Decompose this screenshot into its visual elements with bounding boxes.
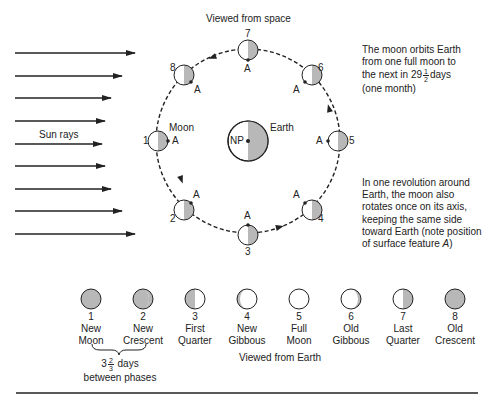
phase-label-new-crescent: 2NewCrescent [113, 311, 173, 347]
orbit-moon-1 [148, 131, 170, 151]
diagram-title: Viewed from space [206, 13, 291, 25]
surface-feature-a-dot [303, 80, 307, 84]
orbit-position-5: 5 [349, 135, 355, 147]
earth-label: Earth [270, 122, 294, 134]
orbit-position-2: 2 [170, 213, 176, 225]
orbit-moon-7 [238, 40, 258, 62]
phase-icon-new-gibbous [237, 289, 257, 309]
phase-icon-new-moon [81, 289, 101, 309]
phase-icon-full-moon [289, 289, 309, 309]
surface-feature-a-dot [166, 139, 170, 143]
orbit-position-6: 6 [318, 62, 324, 74]
phase-label-new-gibbous: 4NewGibbous [217, 311, 277, 347]
phase-icon-old-crescent [445, 289, 465, 309]
sun-rays-label: Sun rays [39, 129, 78, 141]
surface-feature-a-dot [246, 223, 250, 227]
feature-a-label-3: A [244, 210, 251, 222]
phase-label-old-gibbous: 6OldGibbous [321, 311, 381, 347]
phase-label-old-crescent: 8OldCrescent [425, 311, 485, 347]
phase-label-new-moon: 1NewMoon [61, 311, 121, 347]
feature-a-label-5: A [316, 135, 323, 147]
surface-feature-a-dot [189, 80, 193, 84]
surface-feature-a-dot [246, 58, 250, 62]
surface-feature-a-dot [326, 139, 330, 143]
orbit-moon-5 [326, 131, 348, 151]
rotation-note: In one revolution around Earth, the moon… [362, 177, 494, 250]
phase-label-last-quarter: 7LastQuarter [373, 311, 433, 347]
fraction-one-half: 12 [423, 68, 429, 83]
phase-icon-last-quarter [393, 289, 413, 309]
orbit-arrow-icon [275, 223, 284, 231]
fraction-two-thirds: 23 [108, 357, 114, 372]
sun-rays [15, 53, 135, 234]
orbit-moon-8 [174, 65, 194, 85]
feature-a-label-7: A [244, 63, 251, 75]
orbit-period-note: The moon orbits Earth from one full moon… [362, 44, 492, 96]
feature-a-label-8: A [194, 84, 201, 96]
orbit-position-3: 3 [245, 246, 251, 258]
feature-a-label-6: A [293, 84, 300, 96]
phase-icon-new-crescent [133, 289, 153, 309]
north-pole-label: NP [230, 135, 244, 147]
orbit-moon-3 [238, 223, 258, 245]
orbit-moon-2 [174, 200, 194, 220]
phase-icon-old-gibbous [341, 289, 361, 309]
phase-icons [81, 289, 465, 309]
orbit-position-1: 1 [143, 135, 149, 147]
orbit-position-7: 7 [245, 28, 251, 40]
moon-label: Moon [169, 122, 194, 134]
phase-label-full-moon: 5FullMoon [269, 311, 329, 347]
orbit-arrow-icon [325, 103, 333, 112]
phase-label-first-quarter: 3FirstQuarter [165, 311, 225, 347]
interval-note: 323 days between phases [80, 357, 160, 384]
feature-a-label-2: A [193, 189, 200, 201]
orbit-position-8: 8 [170, 62, 176, 74]
surface-feature-a-dot [189, 201, 193, 205]
surface-feature-a-dot [303, 201, 307, 205]
feature-a-label-4: A [293, 189, 300, 201]
north-pole-dot [246, 139, 250, 143]
orbit-position-4: 4 [318, 213, 324, 225]
phases-caption: Viewed from Earth [239, 352, 321, 364]
orbit-arrow-icon [177, 175, 185, 185]
phase-icon-first-quarter [185, 289, 205, 309]
feature-a-label-1: A [172, 135, 179, 147]
